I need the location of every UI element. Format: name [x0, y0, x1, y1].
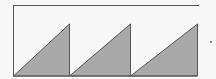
diagram-svg [0, 0, 216, 79]
sawtooth-diagram [0, 0, 216, 79]
dot-marker [210, 41, 212, 43]
